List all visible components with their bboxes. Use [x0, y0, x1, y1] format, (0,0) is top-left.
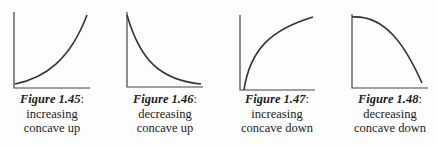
figure-1-47-plot: [240, 15, 315, 90]
axes: [352, 14, 428, 88]
curve: [15, 15, 87, 84]
figure-1-45-caption: Figure 1.45: increasing concave up: [0, 92, 107, 136]
figure-1-47-caption: Figure 1.47: increasing concave down: [222, 92, 332, 136]
curve: [244, 17, 313, 90]
axes: [127, 12, 203, 87]
curve: [127, 15, 201, 84]
figure-1-46-caption: Figure 1.46: decreasing concave up: [110, 92, 220, 136]
caption-line-1: decreasing: [335, 107, 437, 122]
caption-line-1: increasing: [0, 107, 107, 122]
caption-line-2: concave down: [335, 121, 437, 136]
figure-1-45-plot: [14, 12, 90, 88]
figure-1-46-plot: [127, 12, 203, 87]
caption-line-1: increasing: [222, 107, 332, 122]
axes: [240, 15, 315, 90]
figure-1-48-plot: [352, 14, 428, 88]
caption-line-2: concave up: [0, 121, 107, 136]
curve: [352, 17, 422, 83]
figure-label: Figure 1.46: [133, 92, 193, 106]
caption-line-1: decreasing: [110, 107, 220, 122]
axes: [14, 12, 90, 88]
figure-label: Figure 1.48: [358, 92, 418, 106]
caption-line-2: concave down: [222, 121, 332, 136]
figure-label: Figure 1.47: [245, 92, 305, 106]
caption-line-2: concave up: [110, 121, 220, 136]
figure-1-48-caption: Figure 1.48: decreasing concave down: [335, 92, 437, 136]
figure-label: Figure 1.45: [20, 92, 80, 106]
